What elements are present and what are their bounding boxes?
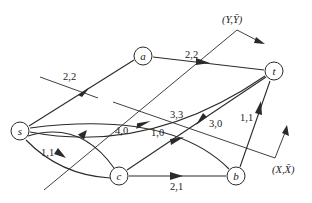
cut-x-label: (X,X̄) bbox=[272, 164, 295, 176]
network-flow-diagram: s a t c b 2,2 2,2 3,3 1,0 3,0 4,0 1,1 2,… bbox=[0, 0, 312, 203]
node-b: b bbox=[227, 167, 245, 185]
node-a-label: a bbox=[140, 50, 146, 62]
edge-label-s-c: 1,1 bbox=[41, 147, 54, 158]
edge-label-b-t: 1,1 bbox=[240, 112, 253, 123]
edge-c-b bbox=[129, 172, 226, 180]
edge-label-b-s: 1,0 bbox=[151, 127, 164, 138]
node-a: a bbox=[134, 47, 152, 65]
node-s: s bbox=[11, 122, 29, 140]
node-b-label: b bbox=[233, 170, 239, 182]
edge-label-t-c: 3,0 bbox=[209, 118, 222, 129]
cut-y-arrow-icon bbox=[254, 37, 265, 44]
edge-a-t bbox=[153, 57, 264, 70]
node-c: c bbox=[110, 167, 128, 185]
node-c-label: c bbox=[117, 170, 122, 182]
edge-label-s-t: 3,3 bbox=[170, 109, 183, 120]
edge-label-c-b: 2,1 bbox=[170, 181, 183, 192]
edge-label-c-s: 4,0 bbox=[115, 125, 128, 136]
edge-s-a bbox=[29, 60, 134, 126]
cut-y bbox=[44, 30, 265, 190]
node-s-label: s bbox=[18, 125, 22, 137]
edge-b-s bbox=[30, 119, 229, 169]
cut-y-label: (Y,Ȳ) bbox=[222, 14, 243, 26]
cut-x-arrow-icon bbox=[282, 125, 289, 136]
edge-label-s-a: 2,2 bbox=[63, 71, 76, 82]
edge-b-t bbox=[240, 81, 270, 167]
node-t: t bbox=[265, 62, 283, 80]
edge-t-c bbox=[127, 77, 266, 170]
edge-label-a-t: 2,2 bbox=[185, 49, 198, 60]
